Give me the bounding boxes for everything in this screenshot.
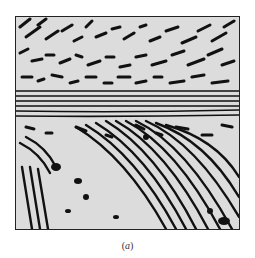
caption-close-paren: ) [130,240,133,251]
micrograph-image [15,16,240,230]
microstructure-pattern [16,17,239,229]
figure-caption: (a) [0,240,255,251]
